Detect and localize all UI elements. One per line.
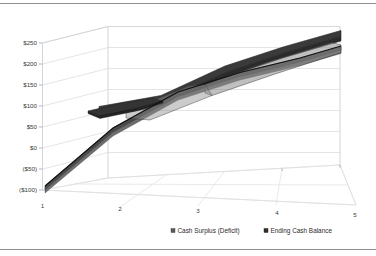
y-tick-label-neg100: ($100) (19, 186, 37, 193)
y-tick-label-250: $250 (23, 39, 37, 46)
gridline-50 (43, 111, 341, 128)
legend-label-cash-surplus[interactable]: Cash Surplus (Deficit) (178, 227, 240, 235)
chart-container: $250 $200 $150 $100 $50 $0 ($50) ($100) (0, 0, 376, 256)
gridline-250 (43, 27, 341, 44)
three-d-area-chart: $250 $200 $150 $100 $50 $0 ($50) ($100) (0, 0, 376, 256)
x-tick-label-1: 1 (41, 202, 45, 209)
legend-swatch-ending-cash-balance-icon (264, 229, 268, 233)
y-tick-label-0: $0 (30, 144, 37, 151)
legend-swatch-cash-surplus-icon (171, 229, 175, 233)
ending-cash-balance-top-face (99, 31, 341, 114)
y-axis-labels: $250 $200 $150 $100 $50 $0 ($50) ($100) (19, 39, 37, 193)
gridline-0 (43, 132, 341, 149)
x-tick-label-4: 4 (275, 209, 279, 216)
y-tick-label-100: $100 (23, 102, 37, 109)
y-tick-label-neg50: ($50) (23, 165, 37, 172)
chart-legend: Cash Surplus (Deficit) Ending Cash Balan… (171, 227, 332, 235)
x-tick-label-3: 3 (196, 207, 200, 214)
back-wall-top-edge (43, 27, 341, 44)
y-tick-label-50: $50 (27, 123, 38, 130)
x-tick-label-5: 5 (353, 211, 357, 218)
legend-label-ending-cash-balance[interactable]: Ending Cash Balance (271, 227, 333, 235)
y-tick-label-200: $200 (23, 60, 37, 67)
y-axis-ticks (39, 43, 43, 190)
y-tick-label-150: $150 (23, 81, 37, 88)
x-tick-label-2: 2 (118, 205, 122, 212)
